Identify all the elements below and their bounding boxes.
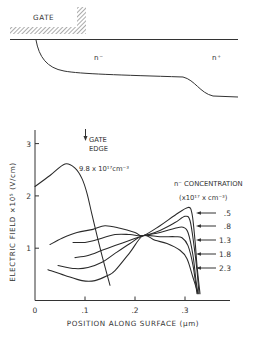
series-label: 1.3 xyxy=(219,236,231,245)
figure: GATE n⁻ n⁺ 0.1.2.3123 .5.81.31.82.3 ELEC… xyxy=(0,0,262,337)
gate-edge-arrow-icon xyxy=(84,136,88,141)
series-curve-2p3 xyxy=(48,235,198,293)
gate-edge-label-line2: EDGE xyxy=(89,145,108,153)
n-plus-region-label: n⁺ xyxy=(212,53,222,62)
series-label: 2.3 xyxy=(219,264,231,273)
series-label: 1.8 xyxy=(219,250,231,259)
x-tick-label: .2 xyxy=(131,306,138,315)
y-tick-label: 2 xyxy=(26,192,31,201)
series-label: .5 xyxy=(224,209,231,218)
gate-label: GATE xyxy=(33,13,54,22)
legend-title: n⁻ CONCENTRATION xyxy=(174,180,243,188)
legend-arrow-icon xyxy=(196,238,201,242)
gate-edge-label-line1: GATE xyxy=(89,136,107,144)
legend-arrow-icon xyxy=(196,224,201,228)
x-tick-label: .1 xyxy=(81,306,88,315)
x-tick-label: 0 xyxy=(33,306,38,315)
device-cross-section: GATE n⁻ n⁺ xyxy=(10,7,238,97)
series-curve-p5 xyxy=(50,207,200,293)
x-tick-label: .3 xyxy=(181,306,188,315)
high-doping-curve-label: 9.8 x 10¹⁷cm⁻³ xyxy=(79,165,129,173)
y-tick-label: 1 xyxy=(26,244,31,253)
legend-leaders: .5.81.31.82.3 xyxy=(196,209,231,273)
y-tick-label: 3 xyxy=(26,140,31,149)
series-curve-p8 xyxy=(73,216,199,294)
series-curve-1p8 xyxy=(58,235,197,293)
x-axis-label: POSITION ALONG SURFACE (μm) xyxy=(67,319,199,328)
gate-edge-annotation: GATE EDGE xyxy=(84,129,109,153)
electric-field-chart: 0.1.2.3123 .5.81.31.82.3 ELECTRIC FIELD … xyxy=(8,129,243,328)
series-label: .8 xyxy=(224,222,231,231)
legend-arrow-icon xyxy=(196,252,201,256)
legend-units: (x10¹⁷ x cm⁻³) xyxy=(179,194,228,202)
series-curve-9p8 xyxy=(35,164,110,286)
legend-arrow-icon xyxy=(196,211,201,215)
y-axis-label: ELECTRIC FIELD ×10⁵ (V/cm) xyxy=(8,162,17,281)
junction-boundary xyxy=(36,40,238,97)
n-minus-region-label: n⁻ xyxy=(94,53,104,62)
